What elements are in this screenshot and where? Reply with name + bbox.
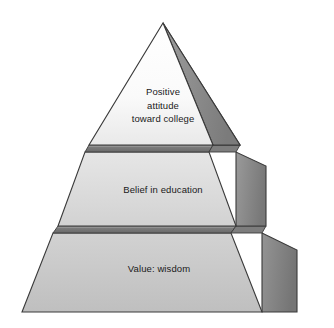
tier-divider-band-1 xyxy=(85,145,240,152)
tier-bottom-side-face xyxy=(262,233,297,312)
tier-label-middle: Belief in education xyxy=(76,183,250,197)
divider-band-1-front xyxy=(85,145,213,152)
divider-band-1-side xyxy=(209,145,240,152)
pyramid-tier-top xyxy=(89,23,240,145)
tier-label-top: Positive attitude toward college xyxy=(103,85,223,126)
divider-band-2-front xyxy=(53,226,236,233)
divider-band-2-side xyxy=(231,226,266,233)
tier-label-bottom: Value: wisdom xyxy=(72,262,246,276)
pyramid-diagram: Positive attitude toward college Belief … xyxy=(0,0,334,328)
tier-divider-band-2 xyxy=(53,226,266,233)
pyramid-graphic xyxy=(0,0,334,328)
